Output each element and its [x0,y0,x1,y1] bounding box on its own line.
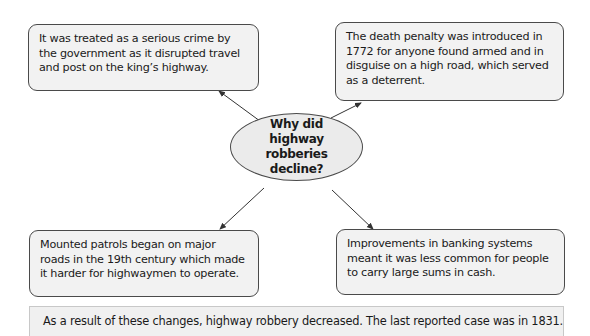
arrow-to-bottom-right [332,190,373,229]
conclusion-text: As a result of these changes, highway ro… [43,314,563,328]
branch-text: Mounted patrols began on major roads in … [40,238,245,280]
arrow-to-top-right [331,103,361,118]
branch-box-bottom-left: Mounted patrols began on major roads in … [29,230,259,297]
branch-text: It was treated as a serious crime by the… [39,32,240,74]
branch-box-top-right: The death penalty was introduced in 1772… [335,22,564,101]
branch-box-bottom-right: Improvements in banking systems meant it… [336,229,565,295]
branch-text: The death penalty was introduced in 1772… [346,30,549,87]
conclusion-banner: As a result of these changes, highway ro… [29,306,564,336]
central-question: Why did highway robberies decline? [241,117,352,177]
arrow-to-bottom-left [220,188,264,229]
central-question-ellipse: Why did highway robberies decline? [230,113,363,181]
branch-text: Improvements in banking systems meant it… [347,237,549,279]
branch-box-top-left: It was treated as a serious crime by the… [28,24,259,91]
